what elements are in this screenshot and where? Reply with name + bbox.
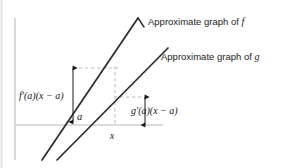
axis-point-label-a: a bbox=[77, 112, 82, 123]
legend-label-approximate-graph-f: Approximate graph of f bbox=[148, 17, 244, 27]
legend-g-prefix: Approximate graph of bbox=[161, 51, 254, 62]
legend-label-approximate-graph-g: Approximate graph of g bbox=[161, 52, 259, 62]
axis-point-label-x: x bbox=[110, 132, 114, 142]
diagram-canvas bbox=[0, 0, 289, 168]
figure-background bbox=[0, 0, 289, 168]
legend-f-variable: f bbox=[241, 16, 244, 27]
annotation-g-increment: g′(a)(x − a) bbox=[131, 106, 178, 116]
legend-g-variable: g bbox=[254, 51, 259, 62]
figure-container: Approximate graph of f Approximate graph… bbox=[0, 0, 289, 168]
legend-f-prefix: Approximate graph of bbox=[148, 16, 241, 27]
annotation-f-increment: f′(a)(x − a) bbox=[19, 91, 63, 101]
